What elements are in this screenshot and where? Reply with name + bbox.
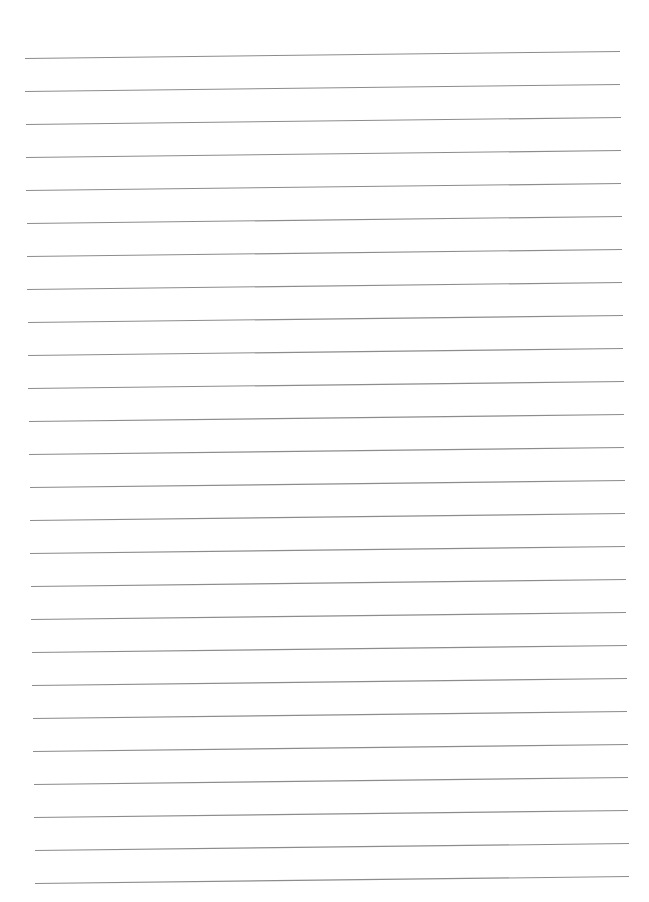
ruled-line — [27, 283, 622, 290]
ruled-line — [30, 514, 625, 521]
ruled-line — [33, 712, 627, 719]
ruled-line — [30, 481, 625, 488]
ruled-lines — [0, 0, 649, 902]
ruled-line — [25, 85, 620, 92]
ruled-line — [25, 52, 620, 59]
ruled-line — [26, 184, 621, 191]
ruled-line — [27, 250, 622, 257]
ruled-line — [28, 382, 624, 389]
ruled-line — [34, 811, 628, 818]
ruled-line — [26, 151, 621, 158]
ruled-line — [31, 613, 626, 620]
ruled-line — [35, 877, 629, 884]
ruled-line — [34, 778, 628, 785]
ruled-line — [31, 580, 626, 587]
ruled-line — [26, 118, 621, 125]
ruled-line — [29, 415, 624, 422]
ruled-line — [33, 745, 628, 752]
ruled-line — [28, 349, 623, 356]
ruled-line — [32, 646, 627, 653]
ruled-line — [29, 448, 624, 455]
ruled-line — [32, 679, 627, 686]
lined-paper-page — [0, 0, 649, 902]
ruled-line — [30, 547, 625, 554]
ruled-line — [35, 844, 629, 851]
ruled-line — [27, 217, 622, 224]
ruled-line — [28, 316, 623, 323]
